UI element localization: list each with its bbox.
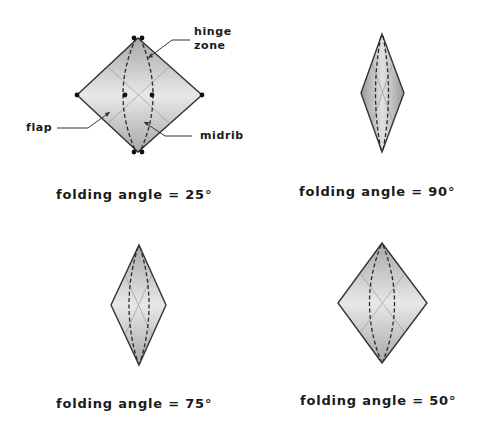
panel-90deg: folding angle = 90°	[299, 34, 455, 199]
hinge-label-line1: hinge	[194, 25, 232, 38]
midrib-label: midrib	[200, 129, 244, 142]
panel-75deg: folding angle = 75°	[56, 245, 212, 411]
panel-50deg: folding angle = 50°	[300, 243, 456, 408]
caption-50: folding angle = 50°	[300, 393, 456, 408]
panel-25deg: hinge zone flap midrib folding angle = 2…	[26, 25, 244, 202]
folding-diagram: hinge zone flap midrib folding angle = 2…	[0, 0, 494, 421]
caption-75: folding angle = 75°	[56, 396, 212, 411]
caption-90: folding angle = 90°	[299, 184, 455, 199]
leaf-shape	[77, 38, 202, 152]
caption-25: folding angle = 25°	[56, 187, 212, 202]
hinge-label-line2: zone	[194, 39, 226, 52]
flap-label: flap	[26, 121, 52, 134]
